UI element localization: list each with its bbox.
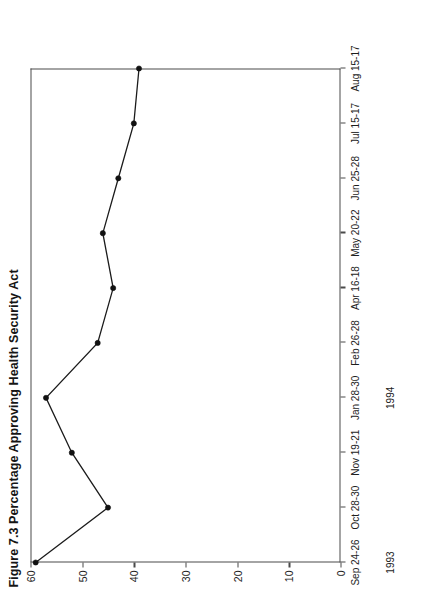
x-axis-tick-label: Oct 28-30 (349, 485, 360, 529)
data-point (43, 395, 48, 400)
x-axis-tick-label: Feb 26-28 (349, 320, 360, 366)
x-axis-tick (340, 67, 345, 68)
data-point (33, 559, 38, 564)
x-axis-tick (340, 451, 345, 452)
data-point (105, 505, 110, 510)
y-axis-tick-label: 20 (231, 570, 243, 582)
x-axis-tick (340, 122, 345, 123)
approval-line-series (30, 68, 340, 562)
y-axis-tick (288, 562, 289, 567)
data-point (115, 175, 120, 180)
x-axis-tick (340, 396, 345, 397)
y-axis-tick-label: 60 (24, 570, 36, 582)
y-axis-tick-label: 40 (127, 570, 139, 582)
x-axis-tick (340, 231, 345, 232)
x-axis-year-label: 1993 (384, 551, 395, 573)
y-axis-tick (133, 562, 134, 567)
y-axis-tick (185, 562, 186, 567)
data-point (69, 450, 74, 455)
data-point (136, 65, 141, 70)
x-axis-tick-label: Apr 16-18 (349, 266, 360, 310)
data-point (110, 285, 115, 290)
y-axis-tick (340, 562, 341, 567)
x-axis-year-label: 1994 (384, 386, 395, 408)
x-axis-tick (340, 341, 345, 342)
x-axis-tick-label: Nov 19-21 (349, 429, 360, 475)
plot-area: 0102030405060 Sep 24-26Oct 28-30Nov 19-2… (30, 68, 340, 562)
page-title: Figure 7.3 Percentage Approving Health S… (6, 269, 20, 587)
x-axis-tick (340, 286, 345, 287)
series-line (35, 68, 138, 562)
data-point (100, 230, 105, 235)
rotated-chart-stage: Figure 7.3 Percentage Approving Health S… (0, 0, 423, 595)
x-axis-tick (340, 561, 345, 562)
x-axis-tick-label: Sep 24-26 (349, 539, 360, 585)
x-axis-tick (340, 506, 345, 507)
y-axis-tick-label: 10 (282, 570, 294, 582)
x-axis-tick (340, 177, 345, 178)
y-axis-tick (82, 562, 83, 567)
x-axis-tick-label: Jun 25-28 (349, 156, 360, 200)
y-axis-tick-label: 50 (76, 570, 88, 582)
y-axis-tick-label: 30 (179, 570, 191, 582)
x-axis-tick-label: Jul 15-17 (349, 102, 360, 143)
x-axis-tick-label: May 20-22 (349, 209, 360, 256)
x-axis-tick-label: Jan 28-30 (349, 375, 360, 419)
y-axis-tick (237, 562, 238, 567)
y-axis-tick (30, 562, 31, 567)
x-axis-tick-label: Aug 15-17 (349, 45, 360, 91)
data-point (95, 340, 100, 345)
figure-page: Figure 7.3 Percentage Approving Health S… (0, 0, 423, 595)
y-axis-tick-label: 0 (334, 570, 346, 576)
data-point (131, 120, 136, 125)
